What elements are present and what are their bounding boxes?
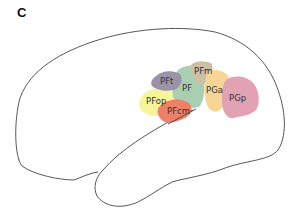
label-PGa: PGa xyxy=(206,85,223,95)
label-PFm: PFm xyxy=(194,66,212,76)
label-PFcm: PFcm xyxy=(167,106,190,116)
label-PFop: PFop xyxy=(146,96,166,106)
label-PFt: PFt xyxy=(160,76,174,86)
brain-outline xyxy=(16,28,285,206)
label-PGp: PGp xyxy=(229,93,246,103)
label-PF: PF xyxy=(182,83,192,93)
brain-lateral-diagram: PFt PF PFm PFop PFcm PGa PGp xyxy=(0,0,298,218)
